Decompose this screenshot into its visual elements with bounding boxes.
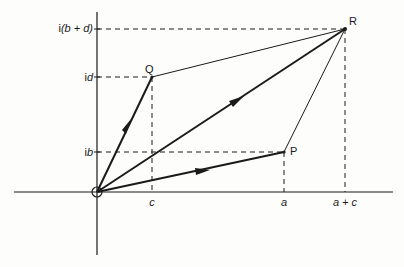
label-r: R — [349, 15, 357, 27]
xtick-label-a: a — [281, 196, 287, 208]
xtick-label-c: c — [149, 196, 155, 208]
point-p-dot — [282, 150, 285, 153]
vector-addition-diagram: Q P R i(b + d) id ib c a a + c — [0, 0, 404, 267]
vector-o-r — [97, 29, 345, 192]
point-r-dot — [343, 27, 347, 31]
diagram-canvas: Q P R i(b + d) id ib c a a + c — [0, 0, 404, 267]
ytick-label-i-b: ib — [84, 146, 93, 158]
arrow-icon-o-r — [229, 96, 244, 107]
label-q: Q — [145, 63, 154, 75]
arrow-icon-o-q — [122, 119, 131, 134]
xtick-label-a-plus-c: a + c — [333, 196, 358, 208]
edge-p-r — [284, 29, 345, 152]
label-p: P — [290, 145, 297, 157]
ytick-label-i-b-plus-d: i(b + d) — [58, 22, 93, 34]
ytick-label-i-d: id — [84, 71, 93, 83]
point-q-dot — [150, 75, 153, 78]
edge-q-r — [152, 29, 345, 77]
vector-o-p — [97, 152, 284, 192]
